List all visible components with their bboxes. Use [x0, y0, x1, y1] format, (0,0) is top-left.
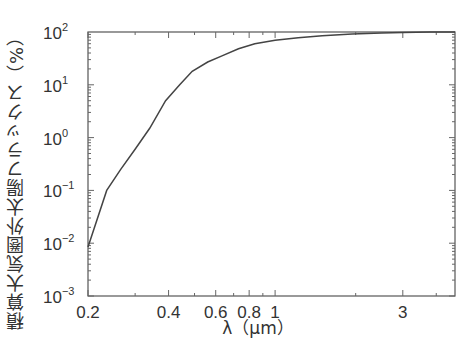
- y-tick-label: 10−1: [43, 179, 74, 201]
- y-tick-labels: 10210110010−110−210−3: [43, 21, 74, 307]
- y-tick-label: 10−2: [43, 232, 74, 254]
- x-tick-label: 0.4: [157, 303, 181, 322]
- chart-plot: 10210110010−110−210−3 0.20.40.60.813 λ（μ…: [0, 0, 469, 358]
- x-axis-title: λ（μm）: [222, 318, 293, 338]
- axis-ticks: [88, 32, 455, 296]
- plot-frame: [88, 32, 455, 296]
- y-tick-label: 102: [43, 21, 68, 43]
- x-tick-label: 3: [398, 303, 407, 322]
- y-tick-label: 101: [43, 74, 68, 96]
- y-tick-label: 100: [43, 127, 68, 149]
- flux-curve: [88, 32, 455, 247]
- y-tick-label: 10−3: [43, 285, 74, 307]
- x-tick-label: 0.2: [76, 303, 100, 322]
